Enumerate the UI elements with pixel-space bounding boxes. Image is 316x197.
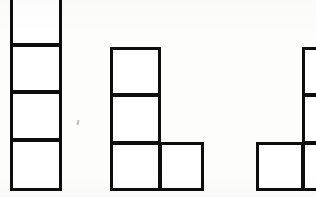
figure-3-cell-2 <box>302 94 316 144</box>
figure-1-cell-3 <box>10 91 62 141</box>
figure-2-cell-2 <box>110 94 161 144</box>
figure-canvas <box>0 0 316 197</box>
figure-1-cell-2 <box>10 44 62 93</box>
paper-speck <box>77 120 80 125</box>
figure-1-cell-1 <box>10 0 62 46</box>
figure-3-cell-3 <box>302 142 316 191</box>
figure-3-cell-4 <box>256 142 304 191</box>
figure-2-cell-4 <box>159 142 204 191</box>
figure-3-cell-1 <box>302 47 316 96</box>
figure-2-cell-3 <box>110 142 161 191</box>
figure-1-cell-4 <box>10 139 62 191</box>
figure-2-cell-1 <box>110 47 161 96</box>
